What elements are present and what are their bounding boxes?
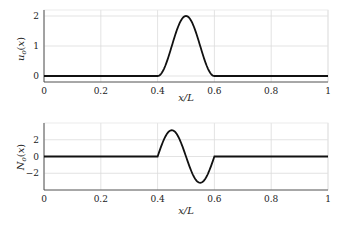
x-tick-label: 0 bbox=[41, 194, 47, 204]
x-tick-label: 0.2 bbox=[94, 86, 108, 96]
y-tick-label: 2 bbox=[33, 11, 39, 21]
y-tick-label: 2 bbox=[33, 135, 39, 145]
y-tick-label: −2 bbox=[26, 168, 39, 178]
data-curve bbox=[44, 130, 328, 183]
top-xlabel: x/L bbox=[178, 92, 194, 103]
x-tick-label: 0.8 bbox=[264, 194, 279, 204]
x-tick-label: 0.2 bbox=[94, 194, 108, 204]
y-tick-label: 0 bbox=[33, 71, 39, 81]
x-tick-label: 0.4 bbox=[150, 194, 165, 204]
x-tick-label: 0.8 bbox=[264, 86, 279, 96]
x-tick-label: 0 bbox=[41, 86, 47, 96]
bottom-plot: 00.20.40.60.81−202 bbox=[26, 123, 331, 204]
x-tick-label: 0.6 bbox=[207, 194, 222, 204]
x-tick-label: 1 bbox=[325, 86, 331, 96]
top-plot: 00.20.40.60.81012 bbox=[33, 10, 331, 96]
y-tick-label: 1 bbox=[33, 41, 39, 51]
bottom-xlabel: x/L bbox=[178, 205, 194, 216]
x-tick-label: 0.6 bbox=[207, 86, 222, 96]
y-tick-label: 0 bbox=[33, 152, 39, 162]
top-ylabel: uo(x) bbox=[15, 37, 28, 61]
x-tick-label: 0.4 bbox=[150, 86, 165, 96]
figure: 00.20.40.60.81012 00.20.40.60.81−202 x/L… bbox=[0, 0, 345, 228]
x-tick-label: 1 bbox=[325, 194, 331, 204]
bottom-ylabel: No(x) bbox=[15, 144, 28, 172]
